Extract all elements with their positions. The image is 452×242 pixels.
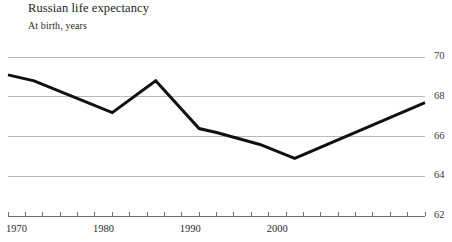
x-axis-tick-label: 1980: [93, 223, 114, 234]
y-axis-tick-label: 64: [434, 169, 445, 180]
x-axis-tick-label: 2000: [267, 223, 288, 234]
y-axis-tick-label: 68: [434, 90, 445, 101]
x-axis-tick-label: 1970: [6, 223, 27, 234]
y-axis-tick-label: 66: [434, 130, 445, 141]
y-axis-tick-label: 62: [434, 209, 445, 220]
x-axis-tick-label: 1990: [180, 223, 201, 234]
series-line-0: [8, 75, 425, 158]
data-line: [8, 75, 425, 158]
chart-figure: Russian life expectancy At birth, years …: [0, 0, 452, 242]
gridlines: [8, 57, 425, 176]
x-axis-ticks: [8, 212, 425, 216]
chart-plot-area: [0, 0, 452, 242]
y-axis-tick-label: 70: [434, 50, 445, 61]
